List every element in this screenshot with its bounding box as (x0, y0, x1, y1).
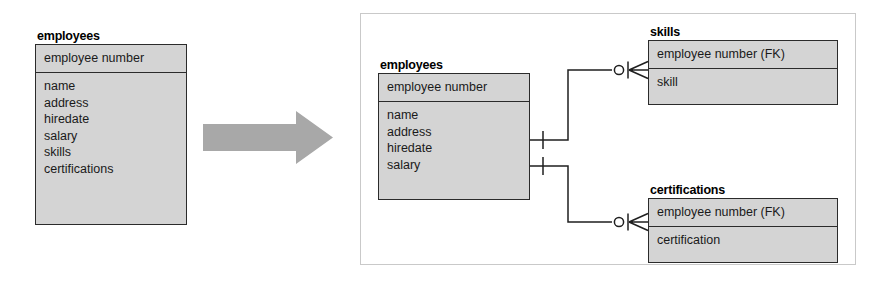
attribute: skills (44, 144, 186, 161)
entity-title-employees-before: employees (37, 29, 100, 43)
entity-attributes-section: certification (649, 227, 837, 262)
er-diagram-canvas: employees employee number name address h… (0, 0, 878, 285)
attribute-key: employee number (44, 51, 144, 66)
entity-box: employee number (FK) skill (648, 40, 838, 105)
attribute-key-fk: employee number (FK) (657, 205, 785, 220)
transform-arrow-icon (203, 111, 333, 164)
entity-key-section: employee number (FK) (649, 41, 837, 69)
entity-skills[interactable]: skills employee number (FK) skill (648, 40, 838, 105)
entity-attributes-section: name address hiredate salary skills cert… (36, 73, 186, 224)
entity-title-employees-after: employees (380, 58, 443, 72)
entity-box: employee number name address hiredate sa… (378, 73, 530, 200)
attribute: name (387, 107, 529, 124)
attribute: skill (657, 74, 837, 91)
attribute: salary (44, 128, 186, 145)
entity-key-section: employee number (FK) (649, 199, 837, 227)
attribute-key: employee number (387, 80, 487, 95)
attribute-key-fk: employee number (FK) (657, 47, 785, 62)
attribute: certifications (44, 161, 186, 178)
entity-key-section: employee number (379, 74, 529, 102)
entity-box: employee number (FK) certification (648, 198, 838, 263)
attribute: address (44, 95, 186, 112)
entity-key-section: employee number (36, 45, 186, 73)
attribute: salary (387, 157, 529, 174)
entity-attributes-section: name address hiredate salary (379, 102, 529, 199)
attribute: address (387, 124, 529, 141)
entity-attributes-section: skill (649, 69, 837, 104)
entity-certifications[interactable]: certifications employee number (FK) cert… (648, 198, 838, 263)
attribute: hiredate (44, 111, 186, 128)
attribute: name (44, 78, 186, 95)
entity-employees-before[interactable]: employees employee number name address h… (35, 44, 187, 225)
entity-employees-after[interactable]: employees employee number name address h… (378, 73, 530, 200)
entity-title-certifications: certifications (650, 183, 725, 197)
attribute: certification (657, 232, 837, 249)
entity-title-skills: skills (650, 25, 680, 39)
entity-box: employee number name address hiredate sa… (35, 44, 187, 225)
attribute: hiredate (387, 140, 529, 157)
